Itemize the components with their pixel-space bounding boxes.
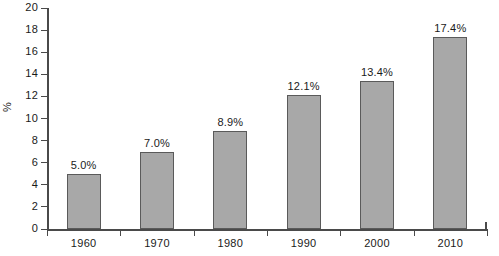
y-tick-label: 20 — [14, 2, 38, 13]
y-tick-label: 2 — [14, 201, 38, 212]
bar — [360, 81, 394, 229]
bar-value-label: 13.4% — [340, 66, 414, 78]
y-tick-label: 6 — [14, 157, 38, 168]
x-tick-mark — [414, 229, 415, 236]
y-tick-label: 8 — [14, 135, 38, 146]
y-tick-label: 10 — [14, 113, 38, 124]
x-tick-mark — [120, 229, 121, 236]
y-tick-mark — [41, 118, 47, 119]
y-tick-label: 14 — [14, 68, 38, 79]
x-category-label: 2000 — [340, 237, 414, 249]
x-tick-mark — [340, 229, 341, 236]
bar — [140, 152, 174, 229]
bar-value-label: 5.0% — [47, 159, 121, 171]
x-tick-mark — [47, 229, 48, 236]
y-axis-title: % — [2, 102, 13, 112]
y-tick-label: 4 — [14, 179, 38, 190]
y-tick-mark — [41, 30, 47, 31]
x-category-label: 1990 — [267, 237, 341, 249]
bar — [67, 174, 101, 229]
bar — [287, 95, 321, 229]
y-tick-label: 0 — [14, 223, 38, 234]
y-tick-mark — [41, 8, 47, 9]
y-tick-mark — [41, 74, 47, 75]
y-axis-line — [47, 8, 49, 230]
x-category-label: 1980 — [193, 237, 267, 249]
bar-value-label: 12.1% — [267, 80, 341, 92]
x-tick-mark — [267, 229, 268, 236]
x-category-label: 1970 — [120, 237, 194, 249]
bar-chart: % 02468101214161820 5.0%7.0%8.9%12.1%13.… — [0, 0, 499, 256]
plot-area: % 02468101214161820 5.0%7.0%8.9%12.1%13.… — [0, 0, 499, 256]
bar-value-label: 17.4% — [413, 22, 487, 34]
x-category-label: 2010 — [413, 237, 487, 249]
y-tick-label: 18 — [14, 24, 38, 35]
bar — [433, 37, 467, 229]
scan-artifact — [6, 243, 66, 251]
y-tick-mark — [41, 206, 47, 207]
bar — [213, 131, 247, 229]
x-tick-mark — [487, 229, 488, 236]
y-tick-mark — [41, 96, 47, 97]
y-tick-mark — [41, 184, 47, 185]
y-tick-label: 16 — [14, 46, 38, 57]
y-tick-mark — [41, 52, 47, 53]
y-tick-mark — [41, 140, 47, 141]
bar-value-label: 8.9% — [193, 116, 267, 128]
y-tick-label: 12 — [14, 90, 38, 101]
bar-value-label: 7.0% — [120, 137, 194, 149]
x-tick-mark — [194, 229, 195, 236]
